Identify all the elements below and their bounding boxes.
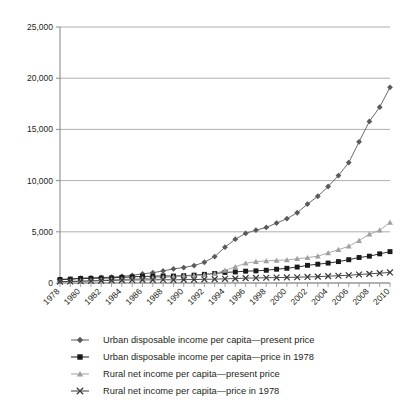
data-point-marker xyxy=(253,268,258,273)
legend-item-label: Urban disposable income per capita—prese… xyxy=(103,335,314,345)
data-point-marker xyxy=(377,251,382,256)
data-point-marker xyxy=(181,265,187,271)
data-point-marker xyxy=(377,104,383,110)
y-axis-label: 15,000 xyxy=(27,124,53,134)
x-axis-label: 1994 xyxy=(206,286,227,307)
data-point-marker xyxy=(387,84,393,90)
data-point-marker xyxy=(264,268,269,273)
x-axis-label: 2010 xyxy=(371,286,392,307)
x-axis-label: 2004 xyxy=(309,286,330,307)
data-point-marker xyxy=(357,255,362,260)
x-axis-label: 1998 xyxy=(247,286,268,307)
legend-item-label: Rural net income per capita—present pric… xyxy=(103,369,280,379)
x-axis-label: 1986 xyxy=(123,286,144,307)
y-axis-label: 20,000 xyxy=(27,73,53,83)
data-point-marker xyxy=(366,119,372,125)
data-point-marker xyxy=(233,269,238,274)
x-axis-label: 1982 xyxy=(82,286,103,307)
data-point-marker xyxy=(356,238,362,243)
data-point-marker xyxy=(346,257,351,262)
data-point-marker xyxy=(346,243,352,248)
y-axis-label: 10,000 xyxy=(27,176,53,186)
x-axis-label: 1984 xyxy=(103,286,124,307)
data-point-marker xyxy=(295,265,300,270)
y-axis-label: 5,000 xyxy=(32,227,54,237)
data-point-marker xyxy=(336,259,341,264)
x-axis-label: 1990 xyxy=(165,286,186,307)
data-point-marker xyxy=(191,263,197,269)
legend-item-label: Urban disposable income per capita—price… xyxy=(103,352,314,362)
data-point-marker xyxy=(305,263,310,268)
data-point-marker xyxy=(160,268,166,274)
x-axis-label: 1992 xyxy=(185,286,206,307)
x-axis-label: 2008 xyxy=(350,286,371,307)
y-axis-label: 0 xyxy=(48,278,53,288)
data-point-marker xyxy=(388,249,393,254)
data-point-marker xyxy=(243,269,248,274)
x-axis-label: 2000 xyxy=(268,286,289,307)
data-point-marker xyxy=(284,216,290,222)
data-point-marker xyxy=(315,262,320,267)
data-point-marker xyxy=(263,225,269,231)
legend-item-label: Rural net income per capita—price in 197… xyxy=(103,386,279,396)
legend-marker-square xyxy=(77,354,82,359)
x-axis-label: 1996 xyxy=(227,286,248,307)
data-point-marker xyxy=(274,220,280,226)
data-point-marker xyxy=(171,266,177,272)
chart-container: 05,00010,00015,00020,00025,0001978198019… xyxy=(0,0,404,406)
data-point-marker xyxy=(367,254,372,259)
income-line-chart: 05,00010,00015,00020,00025,0001978198019… xyxy=(0,0,404,406)
x-axis-label: 1978 xyxy=(41,286,62,307)
data-point-marker xyxy=(201,259,207,265)
legend-marker-diamond xyxy=(77,337,83,343)
data-point-marker xyxy=(356,139,362,145)
x-axis-label: 2006 xyxy=(330,286,351,307)
data-point-marker xyxy=(274,267,279,272)
x-axis-label: 1988 xyxy=(144,286,165,307)
x-axis-label: 1980 xyxy=(62,286,83,307)
data-point-marker xyxy=(326,261,331,266)
y-axis-label: 25,000 xyxy=(27,22,53,32)
data-point-marker xyxy=(387,219,393,224)
data-point-marker xyxy=(284,266,289,271)
data-point-marker xyxy=(377,227,383,232)
x-axis-label: 2002 xyxy=(288,286,309,307)
